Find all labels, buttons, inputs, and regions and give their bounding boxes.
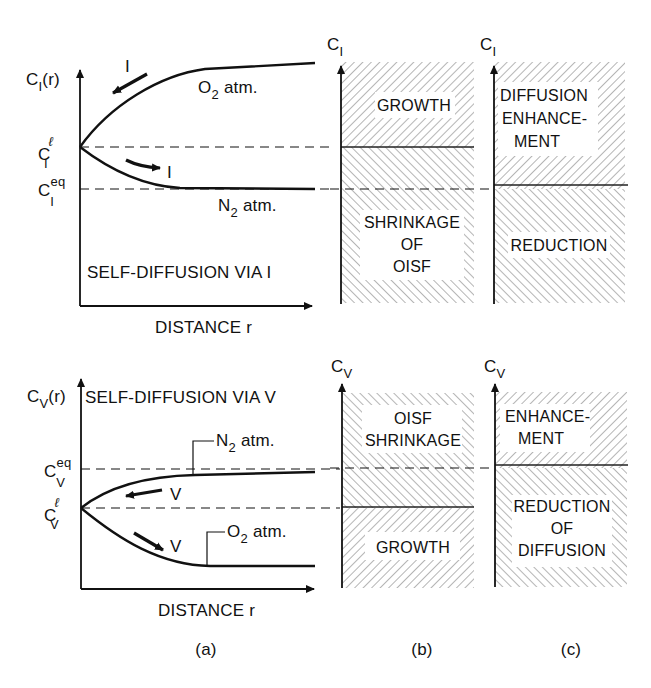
region-enhancement-label-2: ENHANCE-: [502, 110, 587, 127]
region-growth-label: GROWTH: [376, 539, 450, 556]
c-axis-label: CI: [480, 35, 496, 59]
region-reduction-label-1: REDUCTION: [514, 498, 611, 515]
o2-curve: [80, 63, 315, 147]
c-axis-label: CI: [327, 35, 343, 59]
region-growth-label: GROWTH: [377, 97, 451, 114]
arrow-upper-label: V: [170, 485, 182, 504]
o2-atm-label: O2atm.: [227, 522, 287, 546]
diffusion-diagram: CI(r) CℓI CeqI I I O2atm. N2atm. SELF-DI…: [0, 0, 651, 688]
arrow-toward-surface-icon: [126, 490, 162, 496]
panel-a-bottom-plot: CV(r) SELF-DIFFUSION VIA V CeqV CℓV V V …: [27, 379, 340, 659]
n2-curve: [81, 472, 315, 508]
c-axis-label: CV: [331, 357, 352, 381]
panel-label-a: (a): [195, 640, 216, 659]
caption-self-diffusion-i: SELF-DIFFUSION VIA I: [87, 263, 271, 282]
region-enhancement-label-3: MENT: [514, 133, 560, 150]
region-shrinkage-label-2: OF: [401, 236, 424, 253]
level-eq-label: CeqV: [44, 455, 71, 490]
region-oisf-shrinkage-label-2: SHRINKAGE: [365, 432, 461, 449]
arrow-lower-label: I: [167, 163, 172, 182]
level-eq-label: CeqI: [38, 174, 65, 209]
arrow-upper-label: I: [125, 57, 130, 76]
region-oisf-shrinkage-label-1: OISF: [394, 410, 432, 427]
region-shrinkage-label-3: OISF: [393, 258, 431, 275]
x-axis-label: DISTANCE r: [155, 318, 252, 337]
x-axis-label: DISTANCE r: [158, 601, 255, 620]
y-axis-label: CI(r): [26, 70, 60, 94]
caption-self-diffusion-v: SELF-DIFFUSION VIA V: [85, 388, 276, 407]
region-reduction-label: REDUCTION: [511, 237, 608, 254]
panel-a-top-plot: CI(r) CℓI CeqI I I O2atm. N2atm. SELF-DI…: [26, 57, 330, 337]
arrow-into-bulk-icon: [126, 160, 160, 168]
panel-c-top-map: CI DIFFUSION ENHANCE- MENT REDUCTION: [480, 35, 628, 304]
arrow-lower-label: V: [170, 537, 182, 556]
region-reduction-label-2: OF: [551, 520, 574, 537]
o2-atm-label: O2atm.: [198, 78, 258, 102]
panel-label-b: (b): [411, 640, 432, 659]
y-axis-label: CV(r): [27, 387, 66, 411]
panel-c-bottom-map: CV ENHANCE- MENT REDUCTION OF DIFFUSION …: [484, 357, 628, 659]
n2-atm-label: N2atm.: [216, 431, 275, 455]
n2-atm-label: N2atm.: [218, 196, 277, 220]
panel-b-bottom-map: CV OISF SHRINKAGE GROWTH (b): [330, 357, 494, 659]
region-shrinkage-label-1: SHRINKAGE: [364, 214, 460, 231]
o2-leader-line: [207, 532, 225, 566]
panel-b-top-map: CI GROWTH SHRINKAGE OF OISF: [327, 35, 494, 304]
region-enhancement-label-2: MENT: [518, 430, 564, 447]
panel-label-c: (c): [561, 640, 581, 659]
region-enhancement-label-1: ENHANCE-: [505, 408, 590, 425]
c-axis-label: CV: [484, 357, 505, 381]
level-l-label: CℓI: [38, 134, 53, 171]
region-reduction-label-3: DIFFUSION: [518, 542, 606, 559]
region-enhancement-label-1: DIFFUSION: [500, 87, 588, 104]
n2-curve: [80, 147, 315, 189]
level-l-label: CℓV: [44, 495, 59, 532]
